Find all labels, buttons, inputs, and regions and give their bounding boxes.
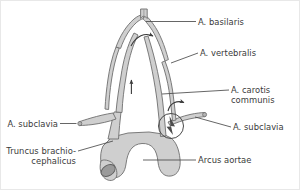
label-truncus-brachiocephalicus-line1: Truncus brachio- [0, 146, 76, 156]
leader-vertebralis [171, 53, 198, 63]
label-a-carotis-communis-line2: communis [231, 95, 275, 105]
label-a-subclavia-left: A. subclavia [0, 119, 58, 129]
anatomical-figure: A. basilaris A. vertebralis A. carotis c… [0, 0, 301, 191]
subclavia-left-branch-shape [79, 113, 116, 126]
subclavia-right-lumen [203, 113, 207, 117]
label-a-subclavia-right: A. subclavia [233, 122, 284, 132]
label-truncus-brachiocephalicus-line2: cephalicus [0, 156, 76, 166]
label-a-vertebralis: A. vertebralis [200, 48, 256, 58]
label-arcus-aortae: Arcus aortae [198, 155, 251, 165]
label-a-basilaris: A. basilaris [198, 17, 244, 27]
subclavia-left-lumen [78, 122, 82, 126]
label-a-carotis-communis-line1: A. carotis [231, 85, 270, 95]
leader-subclavia-right [195, 117, 231, 127]
